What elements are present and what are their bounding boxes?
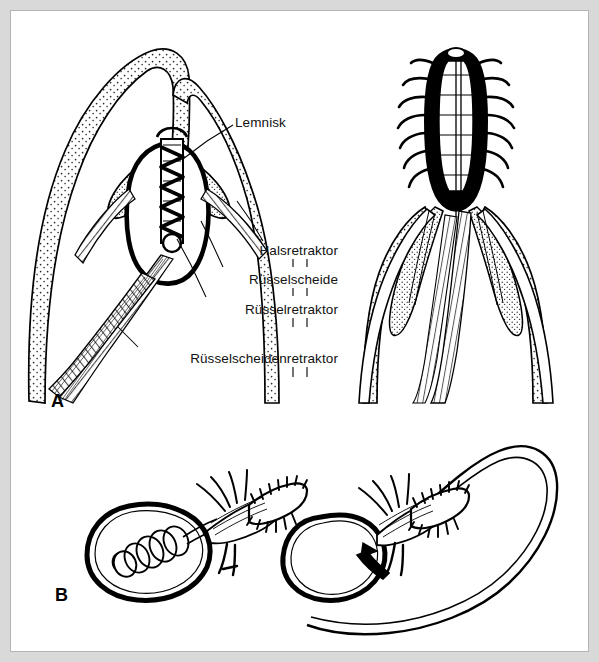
- b-left-upper-spines: [197, 470, 247, 511]
- leader-ruesselscheidenretraktor: [118, 327, 138, 347]
- panel-letter-a: A: [51, 391, 64, 412]
- label-halsretraktor: Halsretraktor: [259, 243, 338, 258]
- panel-b-right-drawing: [283, 446, 557, 634]
- panel-b-left-drawing: [87, 470, 307, 600]
- panel-a-right-drawing: [359, 48, 553, 403]
- illustration-canvas: [11, 11, 588, 651]
- b-left-lower-spines: [219, 544, 237, 575]
- label-ruesselscheide: Rüsselscheide: [249, 272, 338, 287]
- proboscis-tip-bulb: [163, 234, 181, 252]
- figure-plate: Lemnisk Halsretraktor Rüsselscheide Rüss…: [10, 10, 589, 652]
- figure-root: Lemnisk Halsretraktor Rüsselscheide Rüss…: [0, 0, 599, 662]
- panel-a-left-drawing: [29, 49, 279, 403]
- b-right-upper-spines: [359, 474, 409, 515]
- label-ruesselretraktor: Rüsselretraktor: [245, 302, 338, 317]
- label-ruesselscheidenretraktor: Rüsselscheidenretraktor: [190, 351, 338, 366]
- b-right-lower-spines: [387, 543, 403, 575]
- proboscis-apex: [447, 48, 465, 58]
- panel-letter-b: B: [55, 585, 68, 606]
- label-lemnisk: Lemnisk: [235, 115, 286, 130]
